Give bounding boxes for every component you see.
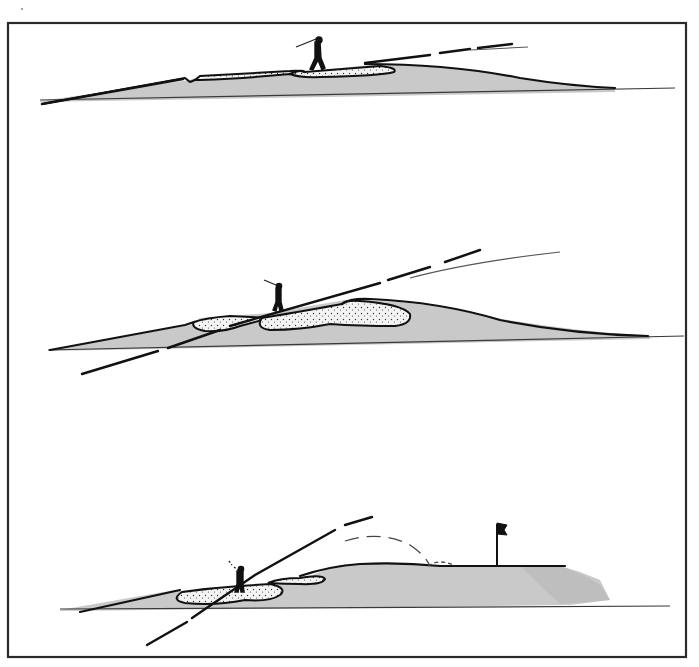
golfer-icon [296,37,325,70]
bunker-sand-right [268,576,325,584]
stray-mark [21,8,23,10]
ball-trajectory [410,252,560,278]
golfer-icon [264,280,283,311]
panel-top [40,37,675,104]
ball-flight-dashed [345,536,430,566]
panel-middle [48,250,684,374]
flagstick-icon [497,523,507,567]
panel-bottom [60,517,670,645]
golf-bunker-illustration [0,0,699,667]
